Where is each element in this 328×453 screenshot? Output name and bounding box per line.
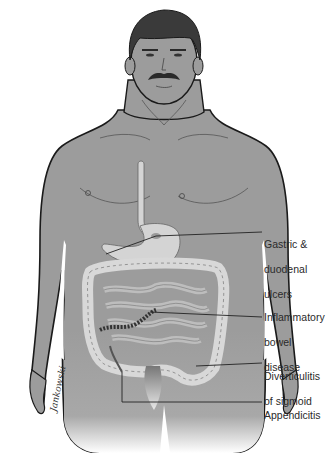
label-line: Gastric &	[264, 238, 307, 251]
label-line: bowel	[264, 336, 325, 349]
label-line: duodenal	[264, 263, 307, 276]
label-line: Appendicitis	[264, 409, 321, 422]
label-line: Inflammatory	[264, 311, 325, 324]
label-line: Diverticulitis	[264, 370, 320, 383]
head	[124, 10, 204, 125]
label-appendicitis: Appendicitis	[264, 396, 321, 434]
